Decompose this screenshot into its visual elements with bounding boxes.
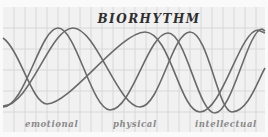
biorhythm-chart: BIORHYTHM emotional physical intellectua… [0,0,268,137]
emotional-curve [3,30,265,112]
label-physical: physical [113,119,157,129]
chart-title: BIORHYTHM [0,12,268,26]
label-intellectual: intellectual [195,119,257,129]
label-emotional: emotional [25,119,78,129]
